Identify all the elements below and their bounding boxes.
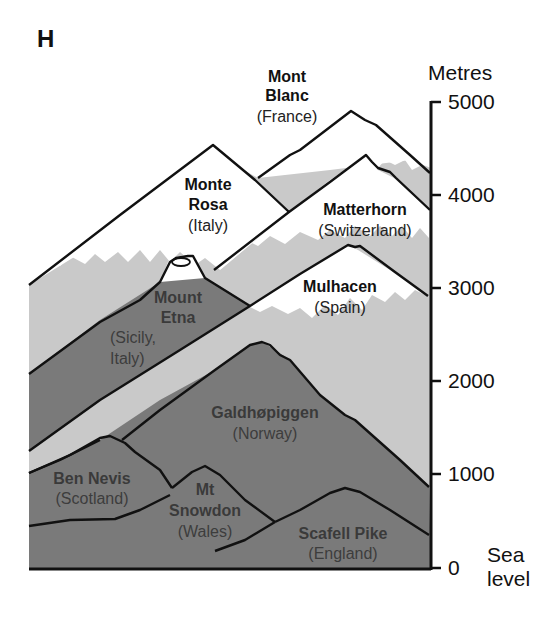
mont-blanc-country: (France) bbox=[257, 108, 317, 125]
matterhorn-country: (Switzerland) bbox=[318, 222, 411, 239]
tick-label-5000: 5000 bbox=[448, 90, 495, 113]
tick-label-4000: 4000 bbox=[448, 183, 495, 206]
ben-nevis-country: (Scotland) bbox=[56, 490, 129, 507]
snowdon-country: (Wales) bbox=[178, 523, 233, 540]
panel-label: H bbox=[37, 25, 54, 52]
snowdon-name-1: Mt bbox=[196, 481, 215, 498]
ben-nevis-name: Ben Nevis bbox=[53, 470, 130, 487]
scafell-pike-country: (England) bbox=[308, 545, 377, 562]
tick-label-3000: 3000 bbox=[448, 276, 495, 299]
mountain-heights-diagram: H bbox=[0, 0, 537, 627]
snowdon-name-2: Snowdon bbox=[169, 502, 241, 519]
etna-name-1: Mount bbox=[154, 289, 203, 306]
scafell-pike-name: Scafell Pike bbox=[299, 525, 388, 542]
mont-blanc-name-1: Mont bbox=[268, 68, 307, 85]
axis-unit-label: Metres bbox=[428, 61, 492, 84]
tick-label-1000: 1000 bbox=[448, 462, 495, 485]
tick-label-2000: 2000 bbox=[448, 369, 495, 392]
mulhacen-name: Mulhacen bbox=[303, 278, 377, 295]
monte-rosa-name-2: Rosa bbox=[188, 196, 227, 213]
etna-name-2: Etna bbox=[161, 309, 196, 326]
etna-country-2: Italy) bbox=[110, 350, 145, 367]
height-axis: Metres 5000 4000 3000 2000 1000 0 Sea le… bbox=[428, 61, 530, 590]
monte-rosa-country: (Italy) bbox=[188, 217, 228, 234]
tick-label-0: 0 bbox=[448, 556, 460, 579]
galdhopiggen-name: Galdhøpiggen bbox=[211, 404, 319, 421]
sea-level-label-line1: Sea bbox=[487, 543, 525, 566]
galdhopiggen-country: (Norway) bbox=[233, 425, 298, 442]
matterhorn-name: Matterhorn bbox=[323, 201, 407, 218]
mont-blanc-name-2: Blanc bbox=[265, 87, 309, 104]
sea-level-label-line2: level bbox=[487, 567, 530, 590]
etna-country-1: (Sicily, bbox=[110, 329, 156, 346]
mulhacen-country: (Spain) bbox=[314, 299, 366, 316]
monte-rosa-name-1: Monte bbox=[184, 176, 231, 193]
